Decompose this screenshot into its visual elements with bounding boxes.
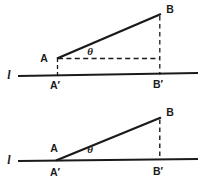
upper-diagram: A B A′ B′ l θ xyxy=(7,3,198,92)
upper-label-a-prime: A′ xyxy=(50,79,61,91)
lower-diagram: A B A′ B′ l θ xyxy=(7,106,198,179)
upper-label-b: B xyxy=(166,3,174,15)
lower-baseline-line-l xyxy=(18,159,198,161)
lower-label-a-prime: A′ xyxy=(50,166,61,178)
upper-segment-ab xyxy=(57,14,161,59)
upper-label-a: A xyxy=(40,52,48,64)
lower-label-b-prime: B′ xyxy=(153,165,164,177)
lower-segment-ab xyxy=(56,118,161,161)
upper-baseline-line-l xyxy=(18,73,198,76)
lower-label-line-l: l xyxy=(7,153,11,167)
upper-label-theta: θ xyxy=(87,45,93,57)
lower-label-b: B xyxy=(166,106,174,118)
lower-label-theta: θ xyxy=(87,143,93,155)
geometry-figure: A B A′ B′ l θ A B A′ B′ l θ xyxy=(0,0,206,184)
upper-label-b-prime: B′ xyxy=(153,78,164,90)
lower-label-a: A xyxy=(50,142,58,154)
upper-label-line-l: l xyxy=(7,68,11,82)
figure-container: A B A′ B′ l θ A B A′ B′ l θ xyxy=(0,0,206,184)
